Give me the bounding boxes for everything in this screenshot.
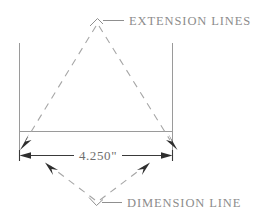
extension-lines-label: EXTENSION LINES <box>129 14 251 28</box>
dimension-line-label: DIMENSION LINE <box>127 196 241 210</box>
dimension-callout-arrowhead-right <box>137 163 150 176</box>
extension-callout-dash-right <box>99 26 170 140</box>
dimension-diagram: EXTENSION LINES 4.250" <box>0 0 266 223</box>
extension-callout-arrowhead-left <box>20 134 32 150</box>
object-outline-group <box>19 43 173 132</box>
extension-lines-leader <box>90 19 124 27</box>
extension-callout-dash-left <box>26 26 96 140</box>
dimension-callout-dashed-group <box>45 163 150 201</box>
technical-drawing-canvas: EXTENSION LINES 4.250" <box>0 0 266 223</box>
dimension-arrowhead-left <box>20 152 32 158</box>
dimension-callout-arrowhead-left <box>45 163 58 176</box>
dimension-callout-dash-left <box>50 166 95 200</box>
dimension-arrowhead-right <box>161 152 173 158</box>
dimension-callout-dash-right <box>100 166 145 200</box>
dimension-value-text: 4.250" <box>79 148 117 163</box>
extension-leader-chevron-icon <box>90 19 103 27</box>
